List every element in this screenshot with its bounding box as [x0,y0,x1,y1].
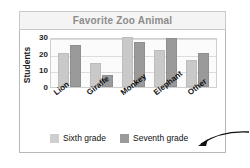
legend-label: Sixth grade [63,133,106,143]
legend-label: Seventh grade [133,133,188,143]
y-axis-ticks: 3020100 [33,34,48,94]
y-tick-label: 0 [44,84,48,92]
y-axis-label: Students [20,40,34,90]
chart-title-box: Favorite Zoo Animal [19,11,226,30]
legend-swatch [120,134,129,143]
y-tick-label: 20 [39,51,48,59]
pointer-arrow-icon [192,126,250,152]
bar [70,45,81,87]
y-tick-label: 10 [39,67,48,75]
x-axis-labels: LionGiraffeMonkeyElephantOther [50,90,217,122]
legend-item: Seventh grade [120,133,188,143]
bar-group [58,39,81,87]
page-title: Favorite Zoo Animal [73,15,173,26]
y-tick-label: 30 [39,34,48,42]
legend-item: Sixth grade [50,133,106,143]
y-axis-label-text: Students [22,47,32,83]
legend-swatch [50,134,59,143]
